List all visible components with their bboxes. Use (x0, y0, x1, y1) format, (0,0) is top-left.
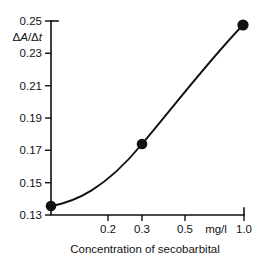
data-point-3 (237, 19, 248, 30)
chart-figure: 0.13 0.15 0.17 0.19 0.21 0.23 0.25 ΔA/Δt… (0, 0, 275, 274)
x-tick-label-2: 0.5 (177, 223, 193, 235)
y-tick-label-5: 0.23 (20, 47, 42, 59)
data-point-2 (137, 139, 148, 150)
y-tick-label-1: 0.15 (20, 177, 42, 189)
data-point-1 (46, 201, 57, 212)
calibration-curve-chart: 0.13 0.15 0.17 0.19 0.21 0.23 0.25 ΔA/Δt… (0, 0, 275, 274)
y-axis-title-a: A (19, 31, 28, 43)
x-tick-label-0: 0.2 (100, 223, 116, 235)
x-axis-title: Concentration of secobarbital (70, 243, 220, 255)
x-tick-label-3: 1.0 (236, 223, 252, 235)
y-axis-title: ΔA/Δt (13, 31, 43, 43)
y-tick-label-4: 0.21 (20, 80, 42, 92)
y-tick-label-0: 0.13 (20, 209, 42, 221)
y-tick-label-3: 0.19 (20, 112, 42, 124)
y-tick-label-2: 0.17 (20, 144, 42, 156)
x-axis-unit-label: mg/l (205, 223, 227, 235)
x-tick-label-1: 0.3 (134, 223, 150, 235)
y-tick-label-6: 0.25 (20, 15, 42, 27)
